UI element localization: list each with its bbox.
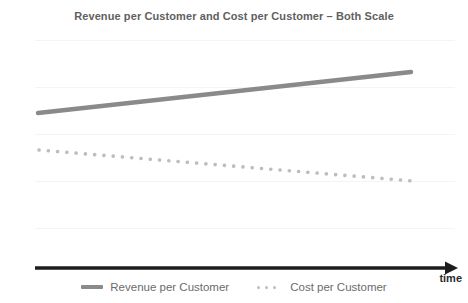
chart-container: Revenue per Customer and Cost per Custom… xyxy=(0,0,468,303)
legend-label: Cost per Customer xyxy=(290,281,387,293)
solid-line-swatch-icon xyxy=(81,285,103,289)
series-group xyxy=(35,32,455,264)
x-axis-arrow xyxy=(30,258,460,278)
legend-item-cost-per-customer[interactable]: Cost per Customer xyxy=(257,281,387,293)
dotted-line-swatch-icon xyxy=(257,286,283,289)
legend-label: Revenue per Customer xyxy=(110,281,229,293)
legend-item-revenue-per-customer[interactable]: Revenue per Customer xyxy=(81,281,229,293)
series-line-revenue-per-customer xyxy=(38,72,411,113)
plot-area xyxy=(35,32,455,264)
series-line-cost-per-customer xyxy=(39,150,413,181)
chart-title: Revenue per Customer and Cost per Custom… xyxy=(0,10,468,22)
chart-legend: Revenue per Customer Cost per Customer xyxy=(0,281,468,293)
